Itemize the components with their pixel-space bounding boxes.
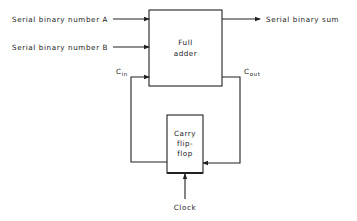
- full-adder-block: [149, 10, 222, 86]
- serial-adder-diagram: Full adder Serial binary number A Serial…: [0, 0, 357, 221]
- full-adder-label-line1: Full: [178, 38, 192, 47]
- full-adder-label-line2: adder: [174, 49, 197, 58]
- clock-label: Clock: [174, 203, 197, 212]
- carry-in-label: Cin: [116, 67, 128, 77]
- carry-out-label: Cout: [244, 67, 261, 77]
- flip-flop-label-line3: flop: [177, 149, 193, 158]
- flip-flop-label-line2: flip-: [177, 139, 193, 148]
- flip-flop-label-line1: Carry: [174, 129, 196, 138]
- sum-output-label: Serial binary sum: [266, 15, 339, 24]
- carry-in-path: [131, 77, 167, 162]
- input-b-label: Serial binary number B: [12, 43, 108, 52]
- input-a-label: Serial binary number A: [12, 15, 108, 24]
- carry-out-path: [203, 77, 240, 163]
